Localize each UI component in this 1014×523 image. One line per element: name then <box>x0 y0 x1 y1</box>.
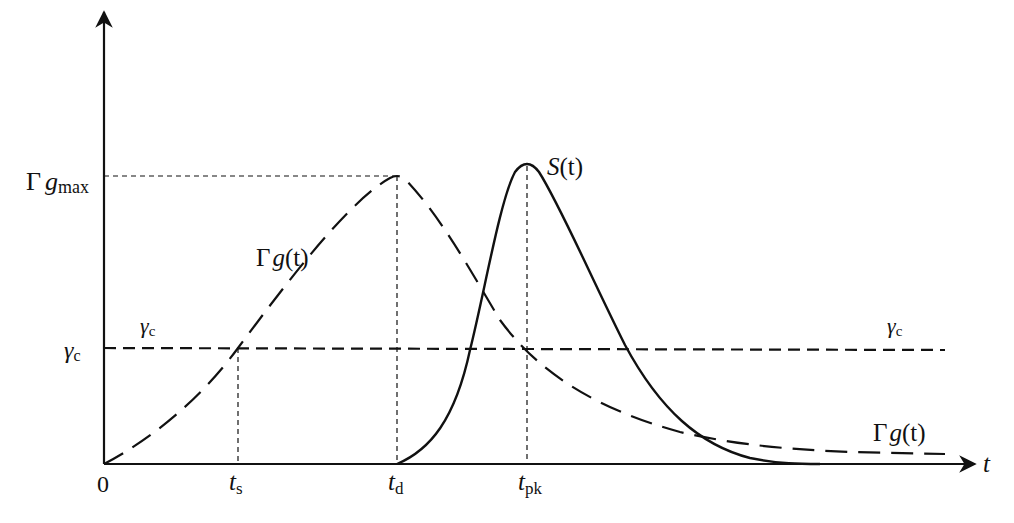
threshold-label-left: γc <box>140 313 156 339</box>
x-tick-ts: ts <box>229 468 243 498</box>
y-label-gmax: Γgmax <box>26 167 89 197</box>
origin-label: 0 <box>97 471 109 497</box>
photon-density-curve <box>397 164 820 464</box>
threshold-label-right: γc <box>887 313 903 339</box>
photon-curve-label: S(t) <box>547 153 583 181</box>
gain-switching-diagram: Γgmax γc γc γc Γg(t) Γg(t) S(t) 0 ts td … <box>0 0 1014 523</box>
x-tick-td: td <box>388 468 404 498</box>
gain-curve <box>104 176 945 464</box>
gain-curve-label-mid: Γg(t) <box>256 244 309 272</box>
y-label-gamma-c: γc <box>64 337 81 364</box>
x-tick-tpk: tpk <box>518 468 542 498</box>
x-axis-label: t <box>983 450 991 477</box>
gain-curve-label-right: Γg(t) <box>873 419 926 447</box>
